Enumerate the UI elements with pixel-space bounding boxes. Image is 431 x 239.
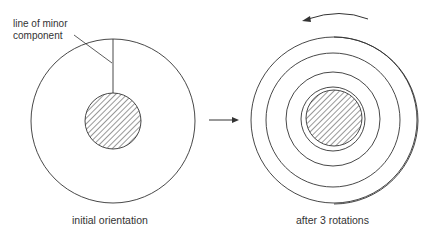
hatched-core	[306, 90, 362, 146]
rotation-arrow-icon	[302, 14, 368, 23]
transition-arrow-icon	[209, 117, 239, 123]
initial-orientation-figure	[31, 35, 195, 203]
diagram: line of minor component initial orientat…	[0, 0, 431, 239]
left-caption: initial orientation	[72, 214, 148, 226]
hatched-core	[85, 93, 141, 149]
right-caption: after 3 rotations	[296, 214, 369, 226]
after-rotations-figure	[251, 37, 418, 204]
minor-component-label: line of minor component	[13, 18, 67, 42]
label-line-2: component	[13, 30, 67, 42]
label-line-1: line of minor	[13, 18, 67, 30]
